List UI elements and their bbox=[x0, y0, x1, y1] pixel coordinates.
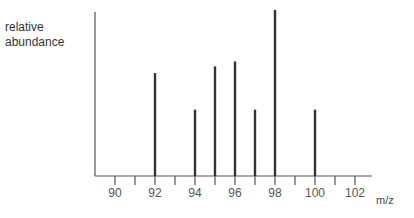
x-tick-label: 94 bbox=[188, 186, 202, 200]
x-tick-label: 100 bbox=[305, 186, 325, 200]
x-tick-label: 90 bbox=[108, 186, 122, 200]
x-tick-label: 96 bbox=[228, 186, 242, 200]
x-tick-label: 102 bbox=[345, 186, 365, 200]
x-tick-label: 98 bbox=[268, 186, 282, 200]
mass-spectrum-chart: 9092949698100102 bbox=[0, 0, 414, 218]
x-tick-label: 92 bbox=[148, 186, 162, 200]
